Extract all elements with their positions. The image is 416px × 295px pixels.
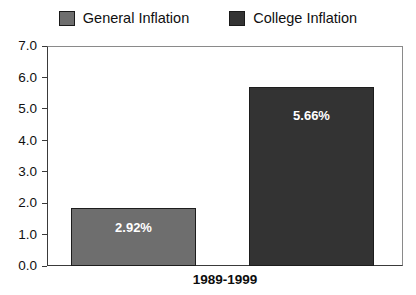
bar-value-label: 5.66% <box>293 109 330 122</box>
legend-swatch-general-inflation-icon <box>59 11 75 26</box>
y-axis-tick: 4.0 <box>0 133 47 147</box>
legend-swatch-college-inflation-icon <box>229 11 245 26</box>
legend-label-college-inflation: College Inflation <box>253 11 357 26</box>
legend-label-general-inflation: General Inflation <box>83 11 189 26</box>
legend-item-college-inflation[interactable]: College Inflation <box>229 11 357 26</box>
y-axis-tick-label: 5.0 <box>18 102 42 116</box>
y-axis-tick-label: 7.0 <box>18 39 42 53</box>
y-axis-tick-label: 6.0 <box>18 71 42 85</box>
legend-item-general-inflation[interactable]: General Inflation <box>59 11 189 26</box>
bar-general-inflation: 2.92% <box>71 208 196 266</box>
y-axis: 7.06.05.04.03.02.01.00.0 <box>0 46 47 266</box>
y-axis-tick: 3.0 <box>0 165 47 179</box>
y-axis-tick: 5.0 <box>0 102 47 116</box>
y-axis-tick: 1.0 <box>0 228 47 242</box>
y-axis-tick: 6.0 <box>0 70 47 84</box>
bar-college-inflation: 5.66% <box>249 87 374 266</box>
plot-area: 2.92%5.66% <box>47 46 403 266</box>
y-axis-tick-label: 3.0 <box>18 165 42 179</box>
y-axis-tick-label: 2.0 <box>18 196 42 210</box>
y-axis-tick: 7.0 <box>0 39 47 53</box>
chart-legend: General Inflation College Inflation <box>0 4 416 32</box>
y-axis-tick: 0.0 <box>0 259 47 273</box>
y-axis-tick-label: 0.0 <box>18 259 42 273</box>
bar-value-label: 2.92% <box>115 221 152 234</box>
chart-screenshot: General Inflation College Inflation 7.06… <box>0 0 416 295</box>
x-axis-title: 1989-1999 <box>47 272 403 287</box>
y-axis-tick: 2.0 <box>0 196 47 210</box>
y-axis-tick-label: 4.0 <box>18 134 42 148</box>
y-axis-tick-label: 1.0 <box>18 228 42 242</box>
